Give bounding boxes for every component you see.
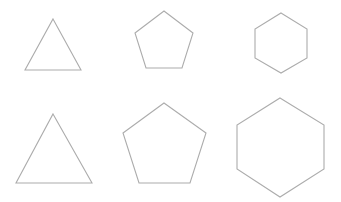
top-hexagon [255,13,307,73]
top-triangle [25,19,81,70]
bottom-row [16,98,324,197]
bottom-hexagon [237,98,324,197]
top-pentagon [135,11,193,68]
shapes-canvas [0,0,341,202]
bottom-pentagon [123,103,206,183]
top-row [25,11,307,73]
bottom-triangle [16,114,92,183]
